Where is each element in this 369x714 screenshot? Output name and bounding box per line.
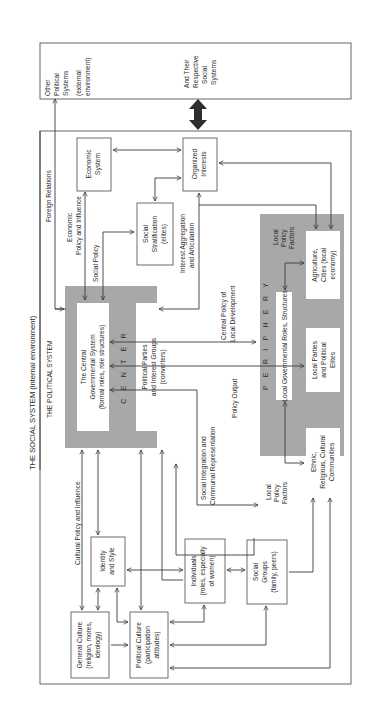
parties-line-1: and Interest Groups bbox=[150, 337, 158, 396]
local-parties-line-2: Elites bbox=[329, 351, 336, 368]
identity-line-1: and Style bbox=[108, 547, 116, 575]
lpf-top-2: Factors bbox=[288, 226, 295, 249]
social-system-title: THE SOCIAL SYSTEM (internal environment) bbox=[28, 315, 37, 470]
individuals-line-2: of women) bbox=[208, 556, 216, 587]
respective-line-0: And Their bbox=[183, 59, 190, 88]
social-integration-label-0: Social Integration and bbox=[200, 436, 208, 500]
individuals-political-arrow bbox=[170, 605, 204, 622]
respective-line-1: Respective bbox=[192, 55, 200, 88]
periphery-zone-label: P E R I P H E R Y bbox=[262, 280, 269, 390]
other-political-systems-label: Other Political Systems (external enviro… bbox=[44, 58, 92, 96]
respective-line-3: Systems bbox=[210, 59, 218, 85]
general-culture-line-0: General Culture bbox=[76, 621, 83, 668]
individuals-line-0: Individuals bbox=[190, 555, 197, 587]
political-system-title: THE POLITICAL SYSTEM bbox=[46, 341, 53, 418]
local-parties-line-0: Local Parties bbox=[311, 340, 318, 379]
organized-line-1: Interests bbox=[200, 151, 207, 177]
lpf-bottom-2: Factors bbox=[281, 481, 288, 504]
social-policy-label: Social Policy bbox=[92, 244, 100, 282]
center-zone-label: C E N T E R bbox=[120, 330, 127, 403]
central-policy-label-1: Local Development bbox=[229, 285, 237, 342]
identity-line-0: Identity bbox=[99, 550, 107, 572]
central-gov-line-0: The Central bbox=[80, 349, 87, 384]
policy-output-label: Policy Output bbox=[231, 379, 239, 418]
respective-social-systems-label: And Their Respective Social Systems bbox=[183, 55, 218, 88]
stratification-organized-arrow bbox=[155, 178, 181, 201]
other-line-4: environment) bbox=[84, 58, 92, 96]
lpf-top-0: Local bbox=[272, 229, 279, 245]
identity-political-arrow bbox=[117, 588, 128, 622]
general-culture-line-2: ideology) bbox=[94, 632, 102, 659]
parties-line-0: Political Parties bbox=[141, 344, 148, 390]
agriculture-line-2: economy) bbox=[329, 251, 337, 280]
organized-line-0: Organized bbox=[191, 148, 199, 179]
political-system-diagram: Other Political Systems (external enviro… bbox=[0, 0, 369, 714]
individuals-line-1: (roles, especially bbox=[199, 546, 207, 596]
social-integration-label-1: Communal Representation bbox=[209, 426, 217, 505]
other-line-1: Political bbox=[53, 73, 60, 96]
other-line-3: (external bbox=[75, 70, 83, 96]
groups-ethnic-arrow bbox=[289, 498, 313, 572]
respective-line-2: Social bbox=[201, 66, 208, 84]
cultural-policy-label: Cultural Policy and Influence bbox=[74, 481, 82, 565]
local-parties-line-1: and Political bbox=[320, 342, 327, 378]
foreign-relations-arrow bbox=[55, 99, 66, 309]
lpf-bottom-1: Policy bbox=[273, 484, 281, 502]
periphery-shade-bottom bbox=[260, 440, 306, 456]
other-line-0: Other bbox=[44, 79, 51, 96]
exchange-double-arrow bbox=[189, 99, 207, 130]
interest-aggregation-label-0: Interest Aggregation bbox=[179, 214, 187, 273]
social-groups-line-0: Social bbox=[252, 562, 259, 580]
interest-aggregation-label-1: and Articulation bbox=[188, 223, 195, 268]
lpf-bottom-0: Local bbox=[265, 484, 272, 500]
foreign-relations-label: Foreign Relations bbox=[45, 170, 53, 222]
other-line-2: Systems bbox=[62, 70, 70, 96]
ethnic-line-0: Ethnic, bbox=[310, 452, 317, 472]
economic-line-0: Economic bbox=[85, 149, 92, 179]
political-culture-line-0: Political Culture bbox=[135, 622, 142, 668]
central-gov-line-2: (formal roles, role structures) bbox=[98, 325, 106, 409]
stratification-line-1: Stratification bbox=[151, 216, 158, 253]
ethnic-line-1: Religious, Cultural bbox=[319, 435, 327, 489]
ethnic-line-2: Communities bbox=[328, 442, 335, 481]
local-gov-text: Local Governmental Roles, Structures bbox=[281, 290, 288, 402]
economic-policy-label-0: Economic bbox=[66, 212, 73, 242]
political-culture-line-1: (participation bbox=[144, 626, 152, 664]
local-policy-factors-bottom: Local Policy Factors bbox=[265, 481, 288, 504]
economic-policy-label-1: Policy and Influence bbox=[75, 196, 83, 255]
general-culture-line-1: (religion, mores, bbox=[85, 621, 93, 668]
stratification-line-2: (elites) bbox=[160, 224, 168, 244]
parties-line-2: (converters) bbox=[159, 349, 167, 384]
agriculture-text: Agriculture, Cities (local economy) bbox=[311, 247, 337, 282]
social-groups-line-2: (family, peers) bbox=[270, 551, 278, 592]
social-groups-line-1: Groups bbox=[261, 560, 269, 582]
economic-line-1: System bbox=[94, 153, 102, 175]
agriculture-line-0: Agriculture, bbox=[311, 248, 319, 282]
central-policy-label-0: Central Policy of bbox=[220, 292, 228, 340]
stratification-line-0: Social bbox=[142, 224, 149, 242]
local-policy-factors-top: Local Policy Factors bbox=[272, 226, 295, 249]
lpf-top-1: Policy bbox=[280, 229, 288, 247]
groups-political-arrow bbox=[170, 606, 266, 645]
central-gov-line-1: Governmental System bbox=[89, 334, 97, 400]
agriculture-line-1: Cities (local bbox=[320, 247, 328, 282]
political-culture-line-2: attitudes) bbox=[153, 631, 161, 658]
